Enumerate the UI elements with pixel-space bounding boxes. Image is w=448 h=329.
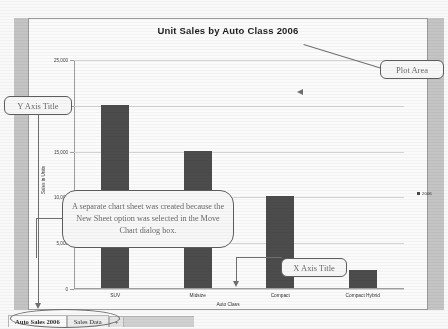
- y-axis-tick: [70, 289, 74, 290]
- y-axis-tick: [70, 60, 74, 61]
- x-axis-title[interactable]: Auto Class: [29, 302, 427, 307]
- callout-note: A separate chart sheet was created becau…: [62, 190, 234, 248]
- x-axis-arrow-icon: [233, 281, 239, 287]
- plot-area-arrow-icon: [297, 89, 303, 95]
- chart-sheet: Unit Sales by Auto Class 2006 25,00020,0…: [28, 18, 428, 310]
- x-axis-tick-label: Midsize: [190, 293, 206, 298]
- legend-label: 2006: [422, 191, 432, 196]
- x-axis-tick-label: Compact: [271, 293, 290, 298]
- callout-plot-area: Plot Area: [380, 60, 444, 79]
- sheet-tab[interactable]: Auto Sales 2006: [8, 315, 67, 327]
- sheet-tab-bar[interactable]: Auto Sales 2006Sales Data +: [8, 313, 194, 327]
- y-axis-title[interactable]: Sales in Units: [41, 166, 46, 194]
- y-axis-arrow-icon: [35, 303, 41, 309]
- x-axis-tick-label: Compact Hybrid: [346, 293, 380, 298]
- callout-x-axis-title: X Axis Title: [281, 258, 347, 277]
- x-axis-leader-horizontal: [236, 257, 282, 258]
- gridline: [74, 289, 404, 290]
- callout-y-axis-title: Y Axis Title: [4, 96, 72, 115]
- y-axis-tick-label: 25,000: [54, 58, 68, 63]
- y-axis-line: [74, 60, 75, 290]
- x-axis-tick-label: SUV: [110, 293, 120, 298]
- bar[interactable]: [349, 270, 377, 288]
- y-axis-tick-label: 0: [65, 287, 68, 292]
- tab-bar-filler: [124, 316, 194, 327]
- scanned-page: Unit Sales by Auto Class 2006 25,00020,0…: [0, 0, 448, 329]
- chart-legend[interactable]: 2006: [417, 191, 432, 196]
- add-sheet-icon[interactable]: +: [109, 316, 125, 327]
- chart-title: Unit Sales by Auto Class 2006: [29, 25, 427, 36]
- page-margin-left: [14, 18, 28, 310]
- plot-area[interactable]: 25,00020,00015,00010,0005,0000 SUVMidsiz…: [74, 60, 404, 289]
- y-axis-leader-line: [38, 115, 39, 305]
- legend-swatch-icon: [417, 192, 420, 195]
- note-leader-horizontal: [36, 218, 64, 219]
- note-leader-vertical: [36, 218, 37, 258]
- y-axis-tick: [70, 152, 74, 153]
- sheet-tab[interactable]: Sales Data: [67, 315, 109, 327]
- y-axis-tick-label: 15,000: [54, 149, 68, 154]
